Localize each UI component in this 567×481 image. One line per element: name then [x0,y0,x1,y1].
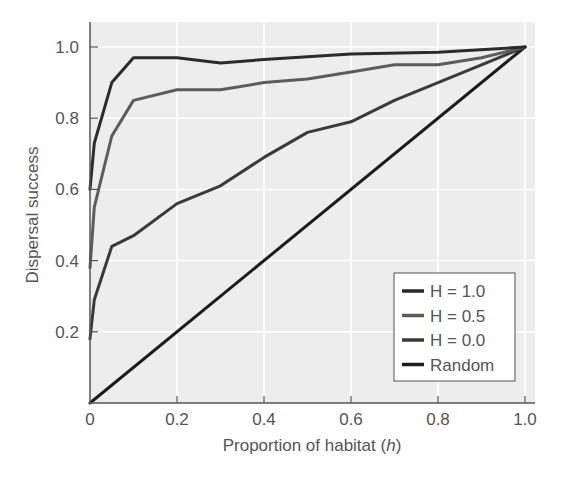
legend-label: Random [430,356,494,375]
x-tick-label: 1.0 [513,410,537,429]
x-tick-label: 0.6 [339,410,363,429]
dispersal-success-chart: 00.20.40.60.81.00.20.40.60.81.0 Dispersa… [0,0,567,481]
y-tick-label: 0.2 [55,323,79,342]
legend-label: H = 0.0 [430,331,485,350]
x-tick-label: 0.8 [426,410,450,429]
x-tick-label: 0.2 [165,410,189,429]
x-tick-label: 0.4 [252,410,276,429]
y-tick-label: 0.4 [55,252,79,271]
x-axis-title: Proportion of habitat (h) [223,436,402,455]
legend: H = 1.0H = 0.5H = 0.0Random [394,273,515,381]
y-tick-label: 0.6 [55,180,79,199]
legend-label: H = 1.0 [430,282,485,301]
y-tick-label: 0.8 [55,109,79,128]
y-axis-title: Dispersal success [23,147,42,284]
x-tick-label: 0 [85,410,94,429]
y-tick-label: 1.0 [55,38,79,57]
legend-label: H = 0.5 [430,307,485,326]
